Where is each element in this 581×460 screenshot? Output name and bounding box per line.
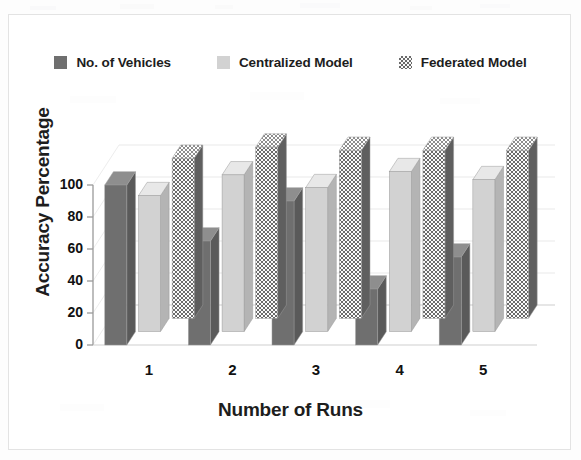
bar-2-series-3 — [256, 134, 287, 319]
bar-5-series-3 — [507, 137, 538, 318]
bar-2-series-2 — [222, 162, 253, 332]
y-tick-label: 60 — [49, 240, 83, 256]
x-tick-label: 5 — [463, 361, 503, 378]
bar-3-series-2 — [306, 174, 337, 331]
bar-1-series-1 — [105, 172, 136, 345]
legend-label-centralized: Centralized Model — [239, 55, 353, 70]
y-tick-label: 80 — [49, 208, 83, 224]
x-tick-label: 3 — [296, 361, 336, 378]
x-tick-label: 1 — [129, 361, 169, 378]
legend-entry-federated: Federated Model — [399, 55, 527, 70]
solid-light-square-icon — [217, 56, 230, 69]
bar-4-series-2 — [389, 158, 420, 331]
x-tick-label: 4 — [380, 361, 420, 378]
y-tick-label: 20 — [49, 304, 83, 320]
figure-canvas: No. of Vehicles Centralized Model Federa… — [0, 0, 581, 460]
x-tick-label: 2 — [212, 361, 252, 378]
chart-frame: No. of Vehicles Centralized Model Federa… — [8, 14, 571, 450]
solid-dark-square-icon — [54, 56, 67, 69]
bar-5-series-2 — [473, 166, 504, 331]
y-tick-label: 40 — [49, 272, 83, 288]
checkered-square-icon — [399, 56, 412, 69]
legend-label-federated: Federated Model — [421, 55, 527, 70]
bar-1-series-3 — [172, 145, 203, 318]
legend-entry-centralized: Centralized Model — [217, 55, 353, 70]
y-tick-label: 100 — [49, 176, 83, 192]
bar-chart-svg — [65, 93, 555, 373]
y-tick-label: 0 — [49, 336, 83, 352]
bar-4-series-3 — [423, 137, 454, 318]
legend-label-vehicles: No. of Vehicles — [76, 55, 171, 70]
plot-area: 020406080100 12345 — [65, 93, 555, 373]
bar-1-series-2 — [138, 182, 169, 331]
bar-3-series-3 — [339, 137, 370, 318]
legend-entry-vehicles: No. of Vehicles — [54, 55, 171, 70]
x-axis-title: Number of Runs — [9, 399, 572, 421]
chart-legend: No. of Vehicles Centralized Model Federa… — [9, 49, 572, 75]
